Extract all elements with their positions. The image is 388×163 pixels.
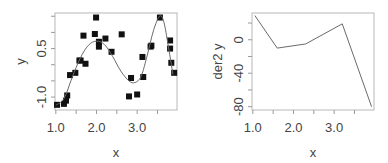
y-tick-label: 0 [231,36,246,43]
data-point [119,31,125,37]
data-point [134,91,140,97]
y-tick-label: 0.5 [34,40,49,58]
scatter-panel: 1.02.03.0-1.00.5xy [13,13,177,160]
second-derivative-panel: 1.02.03.0-80-400xder2 y [210,13,374,160]
data-point [80,33,86,39]
x-tick-label: 2.0 [87,120,105,135]
data-point [92,31,98,37]
data-point [93,15,99,21]
y-tick-label: -80 [231,97,246,116]
fit-line [255,16,372,107]
data-point [128,75,134,81]
figure: 1.02.03.0-1.00.5xy 1.02.03.0-80-400xder2… [0,0,388,163]
x-tick-label: 1.0 [244,120,262,135]
data-point [102,36,108,42]
y-axis-label: der2 y [210,43,225,80]
plot-canvas: 1.02.03.0-1.00.5xy 1.02.03.0-80-400xder2… [0,0,388,163]
x-axis-label: x [113,145,120,160]
y-axis-label: y [13,58,28,65]
x-tick-label: 1.0 [47,120,65,135]
y-tick-label: -1.0 [34,86,49,108]
data-point [83,61,89,67]
x-tick-label: 2.0 [284,120,302,135]
fit-line [56,16,173,105]
x-axis-label: x [310,145,317,160]
x-tick-label: 3.0 [325,120,343,135]
y-tick-label: -40 [231,64,246,83]
data-point [126,93,132,99]
data-point [96,44,102,50]
x-tick-label: 3.0 [128,120,146,135]
data-point [139,54,145,60]
